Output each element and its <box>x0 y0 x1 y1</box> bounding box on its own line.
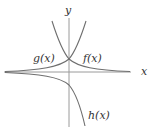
curve-h <box>5 73 85 127</box>
y-axis-label: y <box>65 5 71 16</box>
x-axis-label: x <box>141 66 147 77</box>
function-graph <box>0 0 152 139</box>
curve-label-h: h(x) <box>88 110 110 121</box>
curve-label-f: f(x) <box>83 53 102 64</box>
curve-label-g: g(x) <box>33 53 55 64</box>
